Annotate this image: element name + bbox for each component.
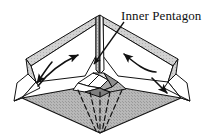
central-ridge-right-face (100, 15, 104, 74)
central-ridge (96, 15, 104, 74)
fold-diagram-canvas: Inner Pentagon (0, 0, 205, 140)
inner-pentagon-figure: Inner Pentagon (0, 0, 205, 140)
inner-pentagon-label: Inner Pentagon (121, 8, 202, 23)
